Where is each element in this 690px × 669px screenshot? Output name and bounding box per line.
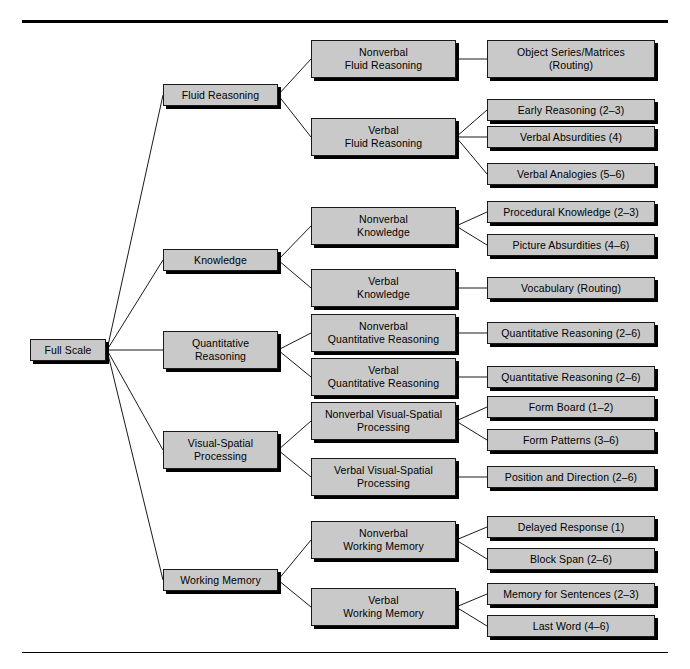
node-factor-nonverbal-fluid-reasoning[interactable]: Nonverbal Fluid Reasoning [311, 40, 456, 78]
node-subtest-position-and-direction[interactable]: Position and Direction (2–6) [487, 466, 655, 488]
link-wm-v [278, 580, 311, 607]
diagram-canvas: Full Scale Fluid Reasoning Knowledge Qua… [0, 0, 690, 669]
node-factor-verbal-fluid-reasoning[interactable]: Verbal Fluid Reasoning [311, 118, 456, 156]
node-subtest-memory-for-sentences[interactable]: Memory for Sentences (2–3) [487, 583, 655, 605]
node-subtest-object-series-matrices[interactable]: Object Series/Matrices (Routing) [487, 40, 655, 78]
node-factor-nonverbal-knowledge[interactable]: Nonverbal Knowledge [311, 207, 456, 245]
link-vwm-sentences [456, 594, 487, 607]
node-factor-verbal-visual-spatial-processing[interactable]: Verbal Visual-Spatial Processing [311, 458, 456, 496]
node-subtest-quantitative-reasoning-nonverbal[interactable]: Quantitative Reasoning (2–6) [487, 322, 655, 344]
link-nvvis-board [456, 407, 487, 421]
link-fluid-nv [278, 59, 311, 95]
node-subtest-form-board[interactable]: Form Board (1–2) [487, 396, 655, 418]
node-subtest-verbal-absurdities[interactable]: Verbal Absurdities (4) [487, 126, 655, 148]
node-subtest-verbal-analogies[interactable]: Verbal Analogies (5–6) [487, 163, 655, 185]
link-nvwm-block [456, 540, 487, 559]
node-domain-visual-spatial-processing[interactable]: Visual-Spatial Processing [163, 431, 278, 469]
node-subtest-procedural-knowledge[interactable]: Procedural Knowledge (2–3) [487, 201, 655, 223]
node-subtest-early-reasoning[interactable]: Early Reasoning (2–3) [487, 99, 655, 121]
link-root-knowledge [107, 260, 163, 350]
link-knowledge-nv [278, 226, 311, 260]
link-quant-v [278, 350, 311, 377]
node-factor-verbal-knowledge[interactable]: Verbal Knowledge [311, 269, 456, 307]
node-subtest-delayed-response[interactable]: Delayed Response (1) [487, 516, 655, 538]
link-visual-nv [278, 421, 311, 450]
link-vfluid-analogies [456, 137, 487, 174]
link-visual-v [278, 450, 311, 477]
node-factor-verbal-working-memory[interactable]: Verbal Working Memory [311, 588, 456, 626]
node-domain-knowledge[interactable]: Knowledge [163, 249, 278, 271]
link-nvwm-delayed [456, 527, 487, 540]
link-wm-nv [278, 540, 311, 580]
link-vwm-lastword [456, 607, 487, 626]
node-domain-quantitative-reasoning[interactable]: Quantitative Reasoning [163, 331, 278, 369]
node-full-scale[interactable]: Full Scale [30, 339, 106, 361]
node-factor-nonverbal-working-memory[interactable]: Nonverbal Working Memory [311, 521, 456, 559]
link-fluid-v [278, 95, 311, 137]
node-factor-nonverbal-quantitative-reasoning[interactable]: Nonverbal Quantitative Reasoning [311, 314, 456, 352]
node-factor-nonverbal-visual-spatial-processing[interactable]: Nonverbal Visual-Spatial Processing [311, 402, 456, 440]
node-subtest-picture-absurdities[interactable]: Picture Absurdities (4–6) [487, 234, 655, 256]
node-domain-working-memory[interactable]: Working Memory [163, 569, 278, 591]
link-quant-nv [278, 333, 311, 350]
link-nvvis-pattern [456, 421, 487, 440]
link-root-visual [107, 350, 163, 450]
node-subtest-vocabulary[interactable]: Vocabulary (Routing) [487, 277, 655, 299]
link-nvknow-proc [456, 212, 487, 226]
node-factor-verbal-quantitative-reasoning[interactable]: Verbal Quantitative Reasoning [311, 358, 456, 396]
link-vfluid-early [456, 110, 487, 137]
node-domain-fluid-reasoning[interactable]: Fluid Reasoning [163, 84, 278, 106]
link-knowledge-v [278, 260, 311, 288]
node-subtest-form-patterns[interactable]: Form Patterns (3–6) [487, 429, 655, 451]
node-subtest-last-word[interactable]: Last Word (4–6) [487, 615, 655, 637]
node-subtest-quantitative-reasoning-verbal[interactable]: Quantitative Reasoning (2–6) [487, 366, 655, 388]
link-root-working [107, 350, 163, 580]
node-subtest-block-span[interactable]: Block Span (2–6) [487, 548, 655, 570]
link-root-fluid [107, 95, 163, 350]
link-nvknow-pict [456, 226, 487, 245]
